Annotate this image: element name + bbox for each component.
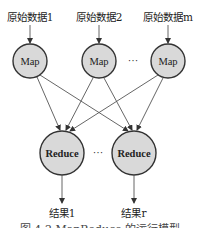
output-label-1: 结果1 xyxy=(49,207,76,219)
figure-caption: 图 4-2 MapReduce 的运行模型 xyxy=(20,222,181,228)
reduce-ellipsis: ··· xyxy=(93,147,104,158)
reduce-node-label: Reduce xyxy=(45,148,79,159)
reduce-node-label: Reduce xyxy=(117,148,151,159)
reduce-node-1: Reduce xyxy=(40,131,84,175)
map-node-label: Map xyxy=(20,56,39,67)
input-label-2: 原始数据2 xyxy=(76,11,123,23)
reduce-node-r: Reduce xyxy=(112,131,156,175)
shuffle-edges xyxy=(37,75,163,131)
map-node-m: Map xyxy=(151,44,185,78)
output-label-r: 结果r xyxy=(121,207,147,219)
input-label-1: 原始数据1 xyxy=(7,11,54,23)
map-node-label: Map xyxy=(158,56,177,67)
map-node-label: Map xyxy=(89,56,108,67)
map-node-1: Map xyxy=(13,44,47,78)
input-label-m: 原始数据m xyxy=(143,11,193,23)
map-ellipsis: ··· xyxy=(128,55,139,66)
mapreduce-diagram: 原始数据1 原始数据2 原始数据m Map Map Map ··· Reduce… xyxy=(0,0,201,228)
map-node-2: Map xyxy=(82,44,116,78)
